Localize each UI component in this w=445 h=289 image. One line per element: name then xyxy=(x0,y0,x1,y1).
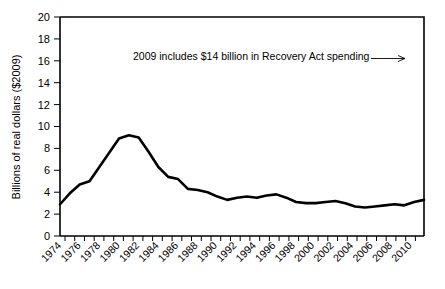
x-tick-label: 1974 xyxy=(38,239,63,264)
x-tick-label: 1984 xyxy=(136,239,161,264)
x-tick-label: 1998 xyxy=(272,239,297,264)
x-tick-label: 2002 xyxy=(311,239,336,264)
x-tick-label: 2004 xyxy=(330,239,355,264)
line-chart: Billions of real dollars ($2009) 0 2 4 6… xyxy=(0,0,445,289)
x-tick-label: 1976 xyxy=(58,239,83,264)
y-tick-label: 0 xyxy=(44,230,50,242)
x-axis-tick-labels: 1974 1976 1978 1980 1982 1984 1986 1988 … xyxy=(38,239,413,264)
x-tick-label: 2006 xyxy=(350,239,375,264)
data-series-line xyxy=(60,135,424,207)
chart-container: Billions of real dollars ($2009) 0 2 4 6… xyxy=(0,0,445,289)
x-tick-label: 2010 xyxy=(389,239,414,264)
y-tick-label: 14 xyxy=(38,77,50,89)
y-tick-label: 12 xyxy=(38,99,50,111)
x-tick-label: 2000 xyxy=(291,239,316,264)
x-tick-label: 1996 xyxy=(253,239,278,264)
y-tick-label: 4 xyxy=(44,186,50,198)
y-tick-label: 2 xyxy=(44,208,50,220)
y-tick-label: 18 xyxy=(38,33,50,45)
x-tick-label: 1990 xyxy=(194,239,219,264)
x-tick-label: 1994 xyxy=(233,239,258,264)
y-axis-title: Billions of real dollars ($2009) xyxy=(10,55,22,200)
x-tick-label: 1978 xyxy=(77,239,102,264)
annotation-label: 2009 includes $14 billion in Recovery Ac… xyxy=(133,50,370,62)
x-tick-label: 1986 xyxy=(155,239,180,264)
x-tick-label: 1982 xyxy=(116,239,141,264)
y-tick-label: 16 xyxy=(38,55,50,67)
x-tick-label: 1980 xyxy=(97,239,122,264)
x-tick-label: 1992 xyxy=(214,239,239,264)
y-tick-label: 8 xyxy=(44,142,50,154)
y-tick-label: 10 xyxy=(38,120,50,132)
y-tick-label: 20 xyxy=(38,11,50,23)
y-axis-ticks: 0 2 4 6 8 10 12 14 16 18 20 xyxy=(38,11,60,242)
y-tick-label: 6 xyxy=(44,164,50,176)
x-tick-label: 2008 xyxy=(369,239,394,264)
x-tick-label: 1988 xyxy=(175,239,200,264)
